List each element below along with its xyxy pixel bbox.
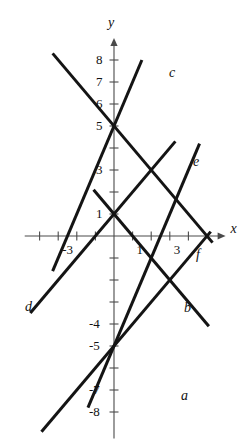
- y-tick-label-6: 6: [96, 97, 103, 110]
- y-tick-label-3: 3: [96, 163, 103, 176]
- graph-figure: -313876531-4-5-7-8xyabcdef: [0, 0, 246, 440]
- y-tick-label--7: -7: [89, 383, 100, 396]
- x-tick-label--3: -3: [62, 243, 73, 256]
- line-d: [30, 141, 175, 313]
- x-tick-label-3: 3: [174, 243, 181, 256]
- y-tick-label--5: -5: [89, 339, 100, 352]
- line-label-a: a: [181, 389, 188, 403]
- line-e: [88, 144, 200, 408]
- x-axis-label: x: [231, 222, 237, 236]
- plot-canvas: [0, 0, 246, 440]
- y-tick-label-8: 8: [96, 53, 103, 66]
- y-axis-label: y: [108, 16, 114, 30]
- y-tick-label-1: 1: [96, 207, 103, 220]
- x-axis-arrow-icon: [218, 232, 226, 239]
- y-tick-label--4: -4: [89, 317, 100, 330]
- line-label-c: c: [169, 66, 175, 80]
- data-lines-group: [30, 53, 212, 431]
- line-label-d: d: [25, 300, 32, 314]
- y-tick-label-7: 7: [96, 75, 103, 88]
- line-label-b: b: [184, 301, 191, 315]
- line-label-e: e: [193, 155, 199, 169]
- line-label-f: f: [196, 248, 200, 262]
- y-tick-label-5: 5: [96, 119, 103, 132]
- y-tick-label--8: -8: [89, 405, 100, 418]
- x-tick-label-1: 1: [137, 243, 144, 256]
- y-axis-arrow-icon: [110, 38, 117, 46]
